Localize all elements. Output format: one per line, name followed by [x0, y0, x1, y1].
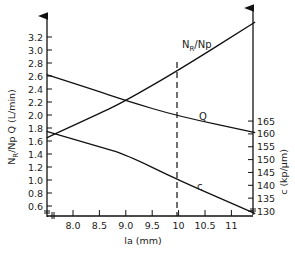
x-tick-label: 10	[173, 220, 185, 231]
left-y-ticks: 0.60.81.01.21.41.61.82.02.22.42.62.83.03…	[28, 32, 52, 212]
left-tick-label: 0.8	[28, 188, 43, 199]
left-tick-label: 1.4	[28, 149, 43, 160]
left-tick-label: 0.6	[28, 201, 43, 212]
left-tick-label: 2.8	[28, 58, 43, 69]
x-tick-label: 9.5	[145, 220, 160, 231]
right-tick-label: 145	[257, 167, 275, 178]
right-tick-label: 165	[257, 116, 275, 127]
curve-c	[47, 131, 256, 213]
x-tick-label: 8.0	[65, 220, 80, 231]
x-ticks: 8.08.59.09.51010.511	[65, 210, 237, 231]
right-tick-label: 135	[257, 193, 275, 204]
left-tick-label: 2.2	[28, 97, 43, 108]
right-y-ticks: 130135140145150155160165	[248, 116, 275, 217]
x-tick-label: 9.0	[118, 220, 133, 231]
x-axis-title: la (mm)	[124, 235, 161, 246]
left-tick-label: 1.0	[28, 175, 43, 186]
left-axis-title: NR/Np Q (L/min)	[6, 89, 20, 165]
right-tick-label: 155	[257, 141, 275, 152]
left-tick-label: 2.6	[28, 71, 43, 82]
right-axis-title: c (kp/µm)	[278, 149, 289, 195]
right-tick-label: 160	[257, 128, 275, 139]
x-tick-label: 11	[225, 220, 237, 231]
curve-label-c: c	[197, 181, 203, 192]
left-tick-label: 1.8	[28, 123, 43, 134]
right-tick-label: 140	[257, 180, 275, 191]
curve-label-nr-np: NR/Np	[182, 39, 212, 53]
left-tick-label: 2.0	[28, 110, 43, 121]
left-tick-label: 1.2	[28, 162, 43, 173]
x-tick-label: 8.5	[92, 220, 107, 231]
curve-label-q: Q	[199, 111, 207, 122]
curve-nr-np	[47, 22, 256, 138]
right-tick-label: 150	[257, 154, 275, 165]
chart-figure: 0.60.81.01.21.41.61.82.02.22.42.62.83.03…	[0, 0, 295, 253]
axis-break-marks	[44, 209, 256, 219]
left-tick-label: 1.6	[28, 136, 43, 147]
x-tick-label: 10.5	[194, 220, 215, 231]
right-tick-label: 130	[257, 206, 275, 217]
left-tick-label: 2.4	[28, 84, 43, 95]
left-tick-label: 3.2	[28, 32, 43, 43]
left-tick-label: 3.0	[28, 45, 43, 56]
